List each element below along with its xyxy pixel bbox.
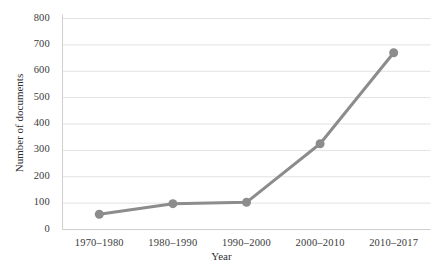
series-polyline	[99, 53, 393, 214]
y-tick-label: 600	[4, 64, 50, 75]
y-tick-label: 800	[4, 12, 50, 23]
data-series-line	[99, 53, 393, 214]
data-point-marker	[316, 139, 325, 148]
x-tick-label: 1980–1990	[136, 237, 210, 248]
x-tick-label: 2000–2010	[283, 237, 357, 248]
data-point-marker	[95, 210, 104, 219]
x-tick-label: 1970–1980	[63, 237, 137, 248]
gridlines-group	[63, 19, 431, 204]
y-tick-label: 100	[4, 196, 50, 207]
chart-figure: 0100200300400500600700800 1970–19801980–…	[0, 0, 443, 268]
y-tick-label: 200	[4, 170, 50, 181]
y-tick-label: 0	[4, 223, 50, 234]
x-tick-label: 2010–2017	[357, 237, 431, 248]
x-axis-title: Year	[0, 250, 443, 262]
data-series-markers	[95, 48, 398, 218]
y-axis-title: Number of documents	[13, 53, 25, 193]
y-tick-label: 500	[4, 91, 50, 102]
data-point-marker	[168, 199, 177, 208]
y-tick-label: 400	[4, 117, 50, 128]
data-point-marker	[242, 198, 251, 207]
line-chart-plot	[0, 0, 443, 268]
axis-lines-group	[63, 15, 431, 230]
x-tick-label: 1990–2000	[210, 237, 284, 248]
y-tick-label: 300	[4, 143, 50, 154]
data-point-marker	[389, 48, 398, 57]
y-tick-label: 700	[4, 38, 50, 49]
